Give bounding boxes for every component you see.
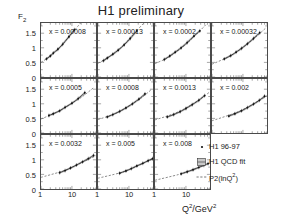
legend-label: P2(lnQ2) bbox=[209, 172, 238, 183]
y-tick-label: 1 bbox=[32, 99, 36, 108]
y-tick-label: 0.5 bbox=[26, 58, 36, 67]
x-tick-label: 1 bbox=[152, 190, 156, 199]
plot-panel: x = 0.0008 bbox=[97, 78, 154, 134]
panel-x-label: x = 0.0008 bbox=[106, 84, 139, 91]
x-tick-label: 10 bbox=[182, 190, 190, 199]
h1-data-points bbox=[106, 92, 145, 119]
x-axis-label-mid: /GeV bbox=[192, 204, 213, 214]
plot-panel: x = 0.00008 bbox=[40, 22, 97, 78]
legend-label: H1 QCD fit bbox=[209, 157, 245, 166]
plot-panel: x = 0.0013 bbox=[154, 78, 211, 134]
x-tick-label: 1 bbox=[95, 190, 99, 199]
p2-lnq2-curve bbox=[155, 92, 210, 120]
y-tick-label: 0 bbox=[32, 130, 36, 139]
panel-x-label: x = 0.00008 bbox=[49, 28, 86, 35]
x-axis-label: Q2/GeV2 bbox=[182, 203, 216, 214]
p2-lnq2-curve bbox=[212, 96, 267, 121]
y-tick-label: 1.5 bbox=[26, 28, 36, 37]
plot-panel: x = 0.0002 bbox=[154, 22, 211, 78]
x-axis-tick-labels: 110110110 bbox=[40, 190, 268, 202]
plot-panel: x = 0.002 bbox=[211, 78, 268, 134]
legend-label: H1 96-97 bbox=[209, 142, 240, 151]
y-axis-tick-labels: 00.511.500.511.500.511.5 bbox=[0, 22, 38, 190]
panel-x-label: x = 0.005 bbox=[106, 140, 135, 147]
figure-root: H1 preliminary F2 00.511.500.511.500.511… bbox=[0, 0, 282, 223]
x-axis-label-base: Q bbox=[182, 204, 189, 214]
panel-x-label: x = 0.0032 bbox=[49, 140, 82, 147]
y-tick-label: 0.5 bbox=[26, 114, 36, 123]
panel-x-label: x = 0.00013 bbox=[106, 28, 143, 35]
y-tick-label: 0 bbox=[32, 186, 36, 195]
y-tick-label: 1.5 bbox=[26, 140, 36, 149]
x-tick-label: 10 bbox=[68, 190, 76, 199]
y-tick-label: 0.5 bbox=[26, 170, 36, 179]
dashed-line-marker bbox=[196, 170, 208, 184]
qcd-fit-line bbox=[49, 93, 85, 116]
y-tick-label: 1 bbox=[32, 155, 36, 164]
plot-panel: x = 0.00013 bbox=[97, 22, 154, 78]
panel-x-label: x = 0.0013 bbox=[163, 84, 196, 91]
plot-panel: x = 0.00032 bbox=[211, 22, 268, 78]
y-axis-label: F2 bbox=[18, 12, 26, 23]
legend-label-tail: ) bbox=[235, 174, 238, 183]
plot-panel: x = 0.005 bbox=[97, 134, 154, 190]
panel-x-label: x = 0.008 bbox=[163, 140, 192, 147]
y-tick-label: 1 bbox=[32, 43, 36, 52]
qcd-fit-band bbox=[49, 93, 85, 116]
point-marker bbox=[196, 140, 208, 154]
x-tick-label: 1 bbox=[38, 190, 42, 199]
figure-title: H1 preliminary bbox=[0, 3, 282, 18]
x-axis-label-sup2: 2 bbox=[213, 203, 216, 209]
panel-x-label: x = 0.00032 bbox=[220, 28, 257, 35]
panel-x-label: x = 0.002 bbox=[220, 84, 249, 91]
h1-data-points bbox=[48, 91, 86, 118]
y-tick-label: 0 bbox=[32, 74, 36, 83]
panel-x-label: x = 0.0005 bbox=[49, 84, 82, 91]
band-marker bbox=[196, 155, 208, 169]
panel-x-label: x = 0.0002 bbox=[163, 28, 196, 35]
qcd-fit-band bbox=[224, 33, 259, 59]
legend-label-base: P2(lnQ bbox=[209, 174, 232, 183]
x-tick-label: 10 bbox=[125, 190, 133, 199]
qcd-fit-band bbox=[103, 31, 136, 61]
y-tick-label: 1.5 bbox=[26, 84, 36, 93]
plot-panel: x = 0.0032 bbox=[40, 134, 97, 190]
legend: H1 96-97H1 QCD fitP2(lnQ2) bbox=[196, 140, 280, 188]
plot-panel: x = 0.0005 bbox=[40, 78, 97, 134]
